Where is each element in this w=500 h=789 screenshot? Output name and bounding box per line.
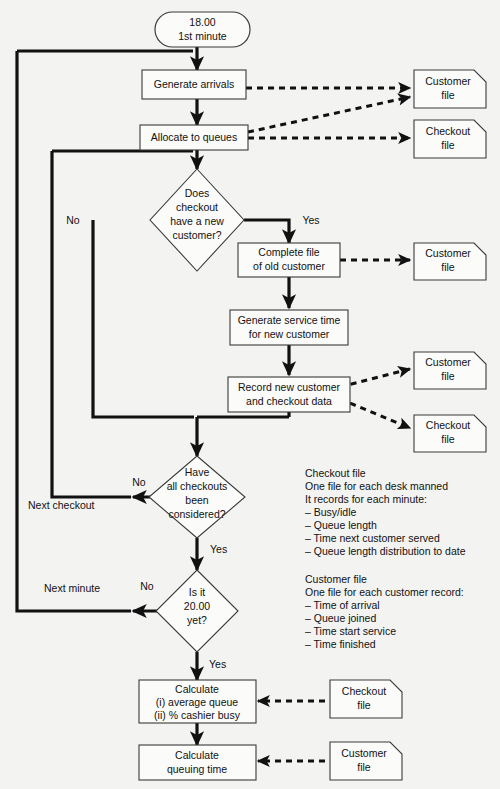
- node-decision-new-customer[interactable]: Does checkout have a new customer?: [150, 169, 244, 271]
- node-calculate-queue-line1: Calculate: [175, 683, 219, 695]
- node-generate-service-time[interactable]: Generate service time for new customer: [230, 310, 348, 345]
- annotation-checkout-file-note: Checkout file One file for each desk man…: [305, 467, 466, 557]
- checkout-note-line-3: – Busy/idle: [305, 506, 357, 518]
- file-checkout-file-3[interactable]: Checkout file: [330, 680, 402, 718]
- file-checkout-file-1-line2: file: [441, 139, 455, 151]
- flowchart-svg: 18.00 1st minute Generate arrivals Alloc…: [0, 0, 500, 789]
- node-start-line2: 1st minute: [178, 30, 227, 42]
- decision-all-checkouts-line4: considered?: [168, 508, 225, 520]
- node-calculate-queue-line2: (i) average queue: [156, 696, 238, 708]
- file-customer-file-3[interactable]: Customer file: [414, 352, 486, 389]
- file-checkout-file-1-line1: Checkout: [426, 125, 470, 137]
- decision-time-line1: Is it: [189, 586, 205, 598]
- edge-label-yes-all-checkouts: Yes: [210, 543, 227, 555]
- edge-yes-new-customer: [244, 220, 289, 243]
- file-checkout-file-1[interactable]: Checkout file: [414, 120, 486, 158]
- edge-label-next-checkout: Next checkout: [28, 499, 95, 511]
- customer-note-line-2: – Time of arrival: [305, 599, 380, 611]
- file-customer-file-3-line1: Customer: [425, 356, 471, 368]
- annotation-customer-file-note: Customer file One file for each customer…: [305, 573, 464, 650]
- node-record-new-customer-line2: and checkout data: [246, 395, 332, 407]
- edge-label-yes-new-customer: Yes: [302, 214, 319, 226]
- node-record-new-customer-line1: Record new customer: [238, 381, 341, 393]
- checkout-note-line-2: It records for each minute:: [305, 493, 427, 505]
- file-checkout-file-3-line2: file: [357, 699, 371, 711]
- node-decision-time[interactable]: Is it 20.00 yet?: [156, 570, 238, 652]
- checkout-note-line-0: Checkout file: [305, 467, 366, 479]
- node-generate-arrivals[interactable]: Generate arrivals: [142, 70, 246, 99]
- file-customer-file-3-line2: file: [441, 370, 455, 382]
- file-customer-file-2[interactable]: Customer file: [414, 243, 486, 280]
- decision-new-customer-line4: customer?: [172, 229, 221, 241]
- edge-label-no-all-checkouts: No: [132, 476, 146, 488]
- node-complete-file-line2: of old customer: [253, 260, 325, 272]
- file-customer-file-2-line1: Customer: [425, 247, 471, 259]
- customer-note-line-5: – Time finished: [305, 638, 376, 650]
- file-checkout-file-2-line2: file: [441, 433, 455, 445]
- node-allocate-to-queues[interactable]: Allocate to queues: [140, 125, 248, 150]
- file-customer-file-1[interactable]: Customer file: [414, 70, 486, 108]
- checkout-note-line-5: – Time next customer served: [305, 532, 440, 544]
- decision-new-customer-line3: have a new: [170, 215, 224, 227]
- edge-label-no-time: No: [140, 580, 154, 592]
- checkout-note-line-4: – Queue length: [305, 519, 377, 531]
- node-generate-service-time-line2: for new customer: [249, 328, 330, 340]
- node-calculate-queuing-time[interactable]: Calculate queuing time: [139, 745, 256, 780]
- edge-label-next-minute: Next minute: [44, 582, 100, 594]
- node-record-new-customer[interactable]: Record new customer and checkout data: [228, 377, 350, 412]
- file-customer-file-1-line2: file: [441, 89, 455, 101]
- file-customer-file-1-line1: Customer: [425, 75, 471, 87]
- customer-note-line-3: – Queue joined: [305, 612, 376, 624]
- checkout-note-line-6: – Queue length distribution to date: [305, 545, 466, 557]
- node-complete-file[interactable]: Complete file of old customer: [238, 243, 340, 277]
- customer-note-line-4: – Time start service: [305, 625, 396, 637]
- node-calculate-queue[interactable]: Calculate (i) average queue (ii) % cashi…: [139, 680, 256, 723]
- file-checkout-file-2[interactable]: Checkout file: [414, 415, 486, 452]
- file-customer-file-2-line2: file: [441, 261, 455, 273]
- node-generate-service-time-line1: Generate service time: [238, 314, 341, 326]
- file-checkout-file-3-line1: Checkout: [342, 685, 386, 697]
- decision-all-checkouts-line3: been: [185, 494, 209, 506]
- customer-note-line-0: Customer file: [305, 573, 367, 585]
- node-complete-file-line1: Complete file: [258, 246, 319, 258]
- edge-label-no-new-customer: No: [66, 214, 80, 226]
- node-calculate-queuing-time-line2: queuing time: [167, 763, 227, 775]
- checkout-note-line-1: One file for each desk manned: [305, 480, 448, 492]
- node-calculate-queuing-time-line1: Calculate: [175, 749, 219, 761]
- file-customer-file-4-line2: file: [357, 761, 371, 773]
- decision-new-customer-line2: checkout: [176, 201, 218, 213]
- decision-new-customer-line1: Does: [185, 187, 210, 199]
- node-start[interactable]: 18.00 1st minute: [155, 12, 250, 47]
- customer-note-line-1: One file for each customer record:: [305, 586, 464, 598]
- decision-all-checkouts-line2: all checkouts: [167, 480, 228, 492]
- file-customer-file-4-line1: Customer: [341, 747, 387, 759]
- edge-allocate-to-customer-file: [248, 97, 410, 132]
- decision-all-checkouts-line1: Have: [185, 466, 210, 478]
- edge-next-minute-loop-return: [17, 51, 131, 611]
- decision-time-line3: yet?: [187, 614, 207, 626]
- decision-time-line2: 20.00: [184, 600, 210, 612]
- node-allocate-to-queues-label: Allocate to queues: [151, 131, 237, 143]
- node-generate-arrivals-label: Generate arrivals: [154, 78, 235, 90]
- file-checkout-file-2-line1: Checkout: [426, 419, 470, 431]
- node-decision-all-checkouts[interactable]: Have all checkouts been considered?: [149, 456, 245, 538]
- edge-label-yes-time: Yes: [209, 658, 226, 670]
- file-customer-file-4[interactable]: Customer file: [330, 742, 402, 780]
- flowchart-canvas: 18.00 1st minute Generate arrivals Alloc…: [0, 0, 500, 789]
- node-start-line1: 18.00: [189, 16, 215, 28]
- node-calculate-queue-line3: (ii) % cashier busy: [154, 709, 241, 721]
